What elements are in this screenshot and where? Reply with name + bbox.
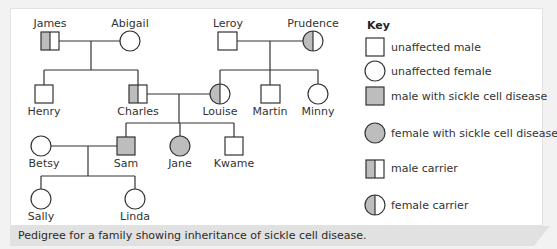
person-betsy: Betsy xyxy=(29,136,60,170)
svg-text:Abigail: Abigail xyxy=(111,17,148,30)
person-louise: Louise xyxy=(202,84,237,118)
svg-text:Linda: Linda xyxy=(120,210,150,223)
svg-text:Louise: Louise xyxy=(202,105,237,118)
svg-text:female carrier: female carrier xyxy=(391,199,469,212)
svg-text:Charles: Charles xyxy=(117,105,159,118)
svg-text:Sam: Sam xyxy=(114,157,138,170)
person-linda: Linda xyxy=(120,189,150,223)
legend-title: Key xyxy=(367,19,390,32)
legend: Key unaffected male unaffected female ma… xyxy=(365,19,557,215)
person-jane: Jane xyxy=(167,136,192,170)
svg-text:James: James xyxy=(32,17,66,30)
legend-item-female-carrier: female carrier xyxy=(365,195,469,215)
circle-filled-icon xyxy=(365,123,385,143)
svg-text:Henry: Henry xyxy=(27,105,61,118)
legend-item-unaffected-male: unaffected male xyxy=(366,38,481,56)
legend-item-affected-male: male with sickle cell disease xyxy=(366,87,548,105)
circle-empty-icon xyxy=(365,61,385,81)
person-james: James xyxy=(32,17,66,50)
person-kwame: Kwame xyxy=(214,137,255,170)
legend-item-unaffected-female: unaffected female xyxy=(365,61,492,81)
person-henry: Henry xyxy=(27,85,61,118)
pedigree-diagram: James Abigail Leroy Prudence Henry Charl… xyxy=(0,0,557,249)
legend-item-affected-female: female with sickle cell disease xyxy=(365,123,557,143)
person-leroy: Leroy xyxy=(213,17,244,50)
legend-item-male-carrier: male carrier xyxy=(366,160,458,178)
svg-text:Betsy: Betsy xyxy=(29,157,60,170)
person-prudence: Prudence xyxy=(287,17,339,51)
svg-text:Jane: Jane xyxy=(167,157,192,170)
svg-text:Prudence: Prudence xyxy=(287,17,339,30)
square-filled-icon xyxy=(366,87,384,105)
svg-text:Leroy: Leroy xyxy=(213,17,244,30)
svg-text:Kwame: Kwame xyxy=(214,157,255,170)
person-minny: Minny xyxy=(302,84,335,118)
figure-caption-band: Pedigree for a family showing inheritanc… xyxy=(10,226,550,246)
person-abigail: Abigail xyxy=(111,17,148,51)
square-empty-icon xyxy=(366,38,384,56)
figure-caption: Pedigree for a family showing inheritanc… xyxy=(18,229,367,242)
svg-text:male with sickle cell disease: male with sickle cell disease xyxy=(391,90,548,103)
svg-text:unaffected female: unaffected female xyxy=(391,65,492,78)
svg-text:Sally: Sally xyxy=(28,210,55,223)
person-martin: Martin xyxy=(252,85,287,118)
person-charles: Charles xyxy=(117,85,159,118)
person-sally: Sally xyxy=(28,189,55,223)
svg-text:female with sickle cell diseas: female with sickle cell disease xyxy=(391,127,557,140)
svg-text:Minny: Minny xyxy=(302,105,335,118)
person-sam: Sam xyxy=(114,137,138,170)
svg-text:unaffected male: unaffected male xyxy=(391,41,481,54)
svg-text:male carrier: male carrier xyxy=(391,162,458,175)
svg-text:Martin: Martin xyxy=(252,105,287,118)
